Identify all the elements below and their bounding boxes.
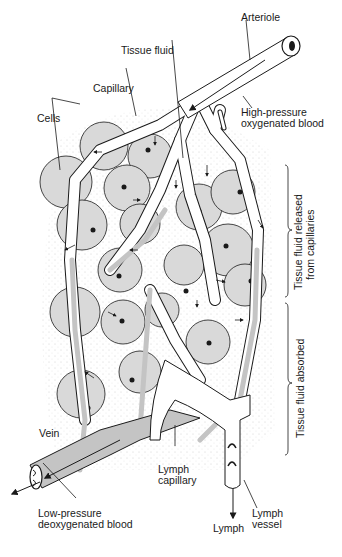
label-high-pressure-2: oxygenated blood — [241, 117, 324, 129]
label-lymph-vessel-2: vessel — [252, 518, 282, 530]
label-tissue-fluid-absorbed: Tissue fluid absorbed — [294, 339, 306, 438]
label-tissue-fluid-released-1: Tissue fluid released — [292, 194, 304, 290]
label-capillary: Capillary — [93, 82, 134, 94]
label-tissue-fluid: Tissue fluid — [121, 44, 174, 56]
label-low-pressure-2: deoxygenated blood — [38, 518, 133, 530]
label-lymph: Lymph — [213, 522, 244, 534]
label-lymph-capillary-2: capillary — [158, 474, 197, 486]
label-cells: Cells — [37, 112, 60, 124]
label-arteriole: Arteriole — [241, 11, 280, 23]
label-vein: Vein — [39, 427, 59, 439]
label-tissue-fluid-released-2: from capillaries — [304, 209, 316, 280]
